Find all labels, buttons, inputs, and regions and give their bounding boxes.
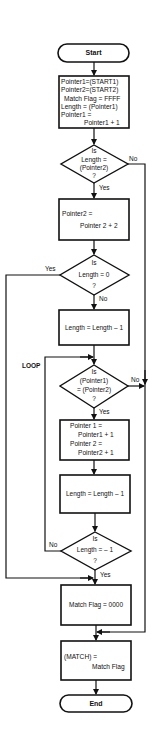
end-label: End xyxy=(60,700,132,708)
init-line-2: Pointer2=(START2) xyxy=(61,86,118,94)
box4-line-2: Pointer1 + 1 xyxy=(78,431,114,439)
box4-line-4: Pointer2 + 1 xyxy=(78,449,114,457)
flowchart-canvas: Start Pointer1=(START1) Pointer2=(START2… xyxy=(0,0,157,747)
d1-no-label: No xyxy=(129,155,137,163)
box2-line-1: Pointer2 = xyxy=(62,210,92,218)
d3-line-2: (Pointer1) xyxy=(64,377,124,385)
d3-yes-label: Yes xyxy=(99,408,110,416)
d2-no-label: No xyxy=(99,295,107,303)
start-label: Start xyxy=(58,49,129,57)
d3-line-1: Is xyxy=(64,368,124,376)
box4-line-1: Pointer 1 = xyxy=(70,422,102,430)
d2-line-2: Length = 0 xyxy=(64,271,124,279)
d4-no-label: No xyxy=(49,541,57,549)
d2-line-1: Is xyxy=(64,259,124,267)
loop-label: LOOP xyxy=(22,362,40,370)
box7-line-1: (MATCH) = xyxy=(64,653,97,661)
d2-yes-label: Yes xyxy=(45,265,56,273)
d4-yes-label: Yes xyxy=(100,571,111,579)
init-line-4: Length = (Pointer1) xyxy=(61,103,118,111)
box2 xyxy=(59,199,129,240)
d1-yes-label: Yes xyxy=(99,184,110,192)
d1-line-4: ? xyxy=(64,172,124,180)
init-line-5: Pointer1 = xyxy=(61,111,91,119)
d4-line-3: ? xyxy=(65,557,125,565)
d4-line-2: Length = – 1 xyxy=(65,546,125,554)
d3-line-3: = (Pointer2) xyxy=(64,386,124,394)
box4-line-3: Pointer 2 = xyxy=(70,440,102,448)
box2-line-2: Pointer 2 + 2 xyxy=(80,222,118,230)
d1-line-1: Is xyxy=(64,147,124,155)
box7-line-2: Match Flag xyxy=(92,663,125,671)
d2-line-3: ? xyxy=(64,282,124,290)
d3-no-label: No xyxy=(131,376,139,384)
box3-text: Length = Length – 1 xyxy=(59,324,129,332)
box6-text: Match Flag = 0000 xyxy=(61,601,131,609)
init-line-3: Match Flag = FFFF xyxy=(64,95,120,103)
d1-line-3: (Pointer2) xyxy=(64,164,124,172)
init-line-6: Pointer1 + 1 xyxy=(84,119,120,127)
d4-line-1: Is xyxy=(65,535,125,543)
init-line-1: Pointer1=(START1) xyxy=(61,78,118,86)
d1-line-2: Length = xyxy=(64,156,124,164)
box5-text: Length = Length – 1 xyxy=(60,490,130,498)
d3-line-4: ? xyxy=(64,395,124,403)
